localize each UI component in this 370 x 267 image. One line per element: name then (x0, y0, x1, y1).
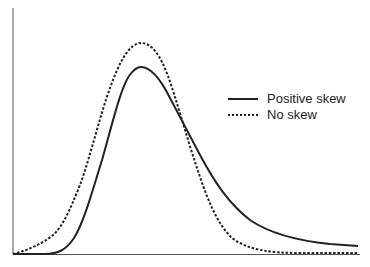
dotted-line-swatch-icon (228, 114, 258, 116)
legend-item-positive-skew: Positive skew (228, 91, 346, 107)
legend-label: No skew (267, 107, 317, 123)
legend-label: Positive skew (267, 91, 346, 107)
legend: Positive skew No skew (228, 91, 346, 123)
legend-item-no-skew: No skew (228, 107, 346, 123)
solid-line-swatch-icon (228, 98, 258, 100)
chart-canvas (0, 0, 370, 267)
no-skew-curve (13, 43, 358, 254)
